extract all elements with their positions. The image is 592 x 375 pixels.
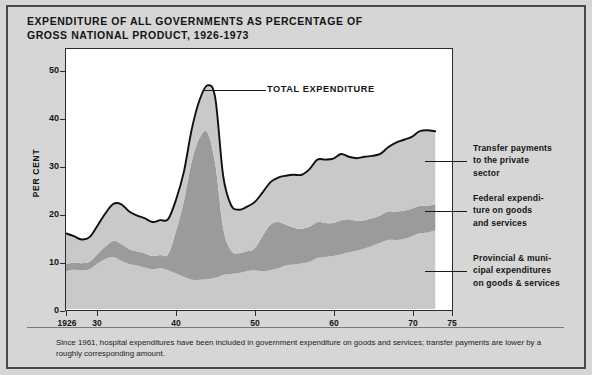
x-tick-mark [176, 311, 177, 316]
x-tick-mark [66, 311, 67, 316]
page-title: EXPENDITURE OF ALL GOVERNMENTS AS PERCEN… [27, 14, 447, 42]
footnote-text: Since 1961, hospital expenditures have b… [56, 337, 556, 360]
footnote-divider [27, 327, 564, 328]
y-tick-label: 10 [33, 257, 59, 267]
y-tick-label: 20 [33, 209, 59, 219]
y-tick-label: 30 [33, 161, 59, 171]
legend-leader-line-federal [425, 211, 467, 212]
legend-label-federal-goods-services: Federal expendi- ture on goods and servi… [473, 192, 581, 229]
y-tick-label: 0 [33, 305, 59, 315]
stacked-area-chart [66, 49, 451, 309]
x-tick-mark [452, 311, 453, 316]
x-tick-mark [413, 311, 414, 316]
legend-label-transfer-payments: Transfer payments to the private sector [473, 142, 581, 179]
x-tick-mark [97, 311, 98, 316]
x-tick-mark [334, 311, 335, 316]
y-tick-label: 40 [33, 113, 59, 123]
y-axis-title: PER CENT [31, 133, 41, 213]
total-expenditure-annotation: TOTAL EXPENDITURE [267, 84, 375, 94]
legend-leader-line-transfer [425, 161, 467, 162]
chart-page: EXPENDITURE OF ALL GOVERNMENTS AS PERCEN… [0, 0, 592, 375]
x-tick-mark [255, 311, 256, 316]
plot-area [65, 48, 453, 311]
legend-leader-line-provincial [425, 271, 467, 272]
y-tick-label: 50 [33, 65, 59, 75]
y-tick-mark [60, 311, 65, 312]
legend-label-provincial-municipal: Provincial & muni- cipal expenditures on… [473, 252, 585, 289]
total-expenditure-leader-line [204, 90, 266, 91]
